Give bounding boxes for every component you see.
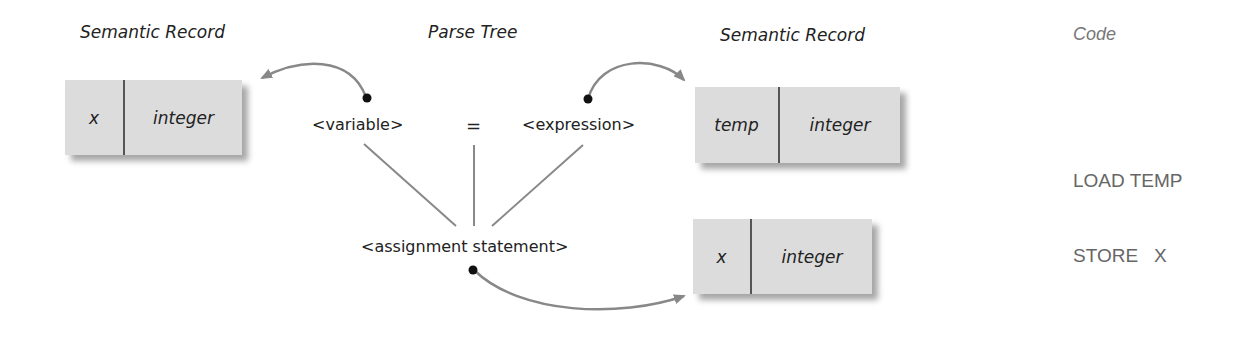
- record-type: integer: [752, 219, 872, 294]
- tree-edge-expression: [492, 145, 583, 226]
- arrow-variable-to-record: [262, 64, 366, 97]
- semantic-record-left: x integer: [65, 80, 242, 155]
- heading-right-semantic-record: Semantic Record: [720, 25, 865, 45]
- heading-parse-tree: Parse Tree: [428, 22, 517, 42]
- node-expression: <expression>: [522, 115, 635, 134]
- semantic-record-right-top: temp integer: [695, 87, 900, 163]
- code-line: STORE X: [1073, 243, 1182, 268]
- semantic-record-right-bottom: x integer: [693, 219, 872, 294]
- arrow-expression-to-record: [588, 63, 684, 99]
- dot-expression: [584, 95, 593, 104]
- node-equals: =: [466, 115, 481, 136]
- code-line: LOAD TEMP: [1073, 168, 1182, 193]
- heading-left-semantic-record: Semantic Record: [80, 22, 225, 42]
- heading-code: Code: [1073, 24, 1116, 45]
- tree-edge-variable: [364, 144, 456, 226]
- record-name: x: [693, 219, 752, 294]
- node-variable: <variable>: [312, 115, 403, 134]
- arrow-assignment-to-record: [474, 270, 684, 309]
- record-name: x: [65, 80, 125, 155]
- node-assignment-statement: <assignment statement>: [361, 237, 568, 256]
- record-type: integer: [125, 80, 242, 155]
- record-type: integer: [780, 87, 900, 163]
- dot-variable: [363, 94, 372, 103]
- record-name: temp: [695, 87, 780, 163]
- dot-assignment: [469, 266, 478, 275]
- code-block: LOAD TEMP STORE X: [1073, 118, 1182, 293]
- diagram-connectors: [0, 0, 1256, 340]
